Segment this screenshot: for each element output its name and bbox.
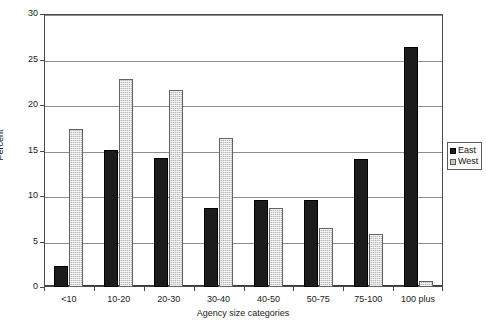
- y-axis-labels: 051015202530: [0, 0, 38, 323]
- y-axis-tick-label: 10: [8, 191, 38, 200]
- bar-west-20-30: [169, 90, 183, 287]
- bar-west-30-40: [219, 138, 233, 287]
- y-axis-tick-label: 15: [8, 146, 38, 155]
- legend-label: West: [458, 157, 478, 166]
- bar-east-30-40: [204, 208, 218, 287]
- bar-chart: 051015202530 Percent <1010-2020-3030-404…: [0, 0, 486, 323]
- x-axis-tick: [293, 287, 294, 291]
- bar-west-10-20: [119, 79, 133, 287]
- x-axis-tick: [393, 287, 394, 291]
- x-axis-tick: [144, 287, 145, 291]
- bar-group: [94, 14, 144, 287]
- y-axis-tick-label: 25: [8, 55, 38, 64]
- legend-item-east: East: [450, 145, 478, 156]
- bar-group: [44, 14, 94, 287]
- x-axis-tick: [244, 287, 245, 291]
- x-axis-tick-label: 20-30: [144, 294, 194, 305]
- x-axis-ticks: [44, 287, 443, 293]
- bar-east-10-20: [104, 150, 118, 287]
- y-axis-tick-label: 20: [8, 100, 38, 109]
- bar-group: [293, 14, 343, 287]
- y-axis-tick-label: 30: [8, 9, 38, 18]
- y-axis-tick-label: 5: [8, 237, 38, 246]
- bar-west-75-100: [369, 234, 383, 287]
- x-axis-tick-label: <10: [44, 294, 94, 305]
- x-axis-tick: [94, 287, 95, 291]
- x-axis-tick-label: 50-75: [293, 294, 343, 305]
- bar-group: [144, 14, 194, 287]
- bar-east-75-100: [354, 159, 368, 287]
- bar-west-50-75: [319, 228, 333, 287]
- x-axis-tick-label: 40-50: [244, 294, 294, 305]
- legend: EastWest: [447, 142, 482, 170]
- bar-west--10: [69, 129, 83, 287]
- bar-east-40-50: [254, 200, 268, 287]
- bar-east-50-75: [304, 200, 318, 287]
- legend-swatch-west-icon: [450, 159, 456, 165]
- x-axis-tick: [343, 287, 344, 291]
- bar-east-100-plus: [404, 47, 418, 287]
- bar-group: [244, 14, 294, 287]
- x-axis-tick: [194, 287, 195, 291]
- x-axis-title: Agency size categories: [0, 308, 486, 318]
- legend-item-west: West: [450, 156, 478, 167]
- x-axis-tick-label: 30-40: [194, 294, 244, 305]
- x-axis-tick-label: 10-20: [94, 294, 144, 305]
- bar-group: [343, 14, 393, 287]
- x-axis-tick-label: 75-100: [343, 294, 393, 305]
- bar-group: [393, 14, 443, 287]
- y-axis-title: Percent: [0, 129, 5, 160]
- bar-east-20-30: [154, 158, 168, 287]
- legend-label: East: [458, 146, 476, 155]
- x-axis-tick: [442, 287, 443, 291]
- bars-layer: [44, 14, 443, 287]
- bar-west-40-50: [269, 208, 283, 287]
- x-axis-labels: <1010-2020-3030-4040-5050-7575-100100 pl…: [44, 294, 443, 308]
- y-axis-tick-label: 0: [8, 282, 38, 291]
- bar-east--10: [54, 266, 68, 287]
- legend-swatch-east-icon: [450, 148, 456, 154]
- x-axis-tick: [44, 287, 45, 291]
- x-axis-tick-label: 100 plus: [393, 294, 443, 305]
- bar-group: [194, 14, 244, 287]
